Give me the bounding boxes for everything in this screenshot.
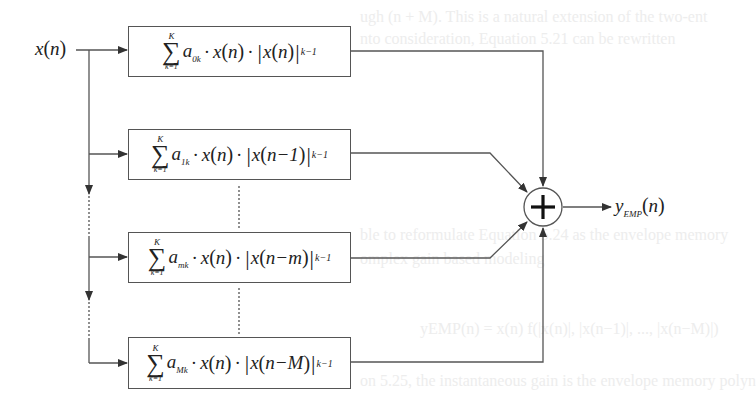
abs-arg: n (278, 41, 288, 63)
sigma-icon: K∑k=1 (162, 32, 181, 71)
input-label: x(n) (35, 37, 66, 60)
abs-arg: n−1 (267, 144, 299, 166)
branch-box-m: K∑k=1 amk · x(n) · |x(n−m)|k−1 (128, 232, 351, 283)
x-term: x (200, 352, 208, 374)
coefficient: a0k (183, 40, 201, 64)
x-arg: n (216, 247, 226, 269)
abs-bar: | (310, 245, 314, 271)
x-term: x (202, 144, 210, 166)
abs-bar: | (311, 350, 315, 376)
coefficient: amk (168, 246, 188, 270)
sigma-icon: K∑k=1 (148, 238, 167, 277)
branch-formula: K∑k=1 amk · x(n) · |x(n−m)|k−1 (148, 238, 331, 277)
branch-formula: K∑k=1 a1k · x(n) · |x(n−1)|k−1 (151, 135, 328, 174)
x-term: x (213, 41, 221, 63)
branch-formula: K∑k=1 aMk · x(n) · |x(n−M)|k−1 (146, 344, 332, 383)
input-arg: n (50, 38, 60, 59)
dot-operator: · (236, 144, 242, 166)
exponent: k−1 (312, 149, 328, 160)
x-arg: n (217, 144, 227, 166)
branch-box-0: K∑k=1 a0k · x(n) · |x(n)|k−1 (128, 26, 351, 77)
abs-bar: | (306, 142, 310, 168)
abs-bar: | (295, 39, 299, 65)
branch-box-1: K∑k=1 a1k · x(n) · |x(n−1)|k−1 (128, 129, 351, 180)
x-arg: n (215, 352, 225, 374)
x-term: x (252, 144, 260, 166)
output-label: yEMP(n) (615, 194, 665, 219)
sigma-icon: K∑k=1 (151, 135, 170, 174)
x-term: x (251, 247, 259, 269)
abs-bar: | (258, 39, 262, 65)
branch-box-M: K∑k=1 aMk · x(n) · |x(n−M)|k−1 (128, 337, 351, 389)
x-term: x (263, 41, 271, 63)
dot-operator: · (191, 352, 197, 374)
dot-operator: · (204, 41, 210, 63)
sigma-icon: K∑k=1 (146, 344, 165, 383)
abs-bar: | (245, 245, 249, 271)
output-subscript: EMP (623, 209, 642, 219)
abs-bar: | (246, 142, 250, 168)
dot-operator: · (234, 352, 240, 374)
dot-operator: · (191, 247, 197, 269)
x-arg: n (228, 41, 238, 63)
dot-operator: · (235, 247, 241, 269)
x-term: x (250, 352, 258, 374)
branch-formula: K∑k=1 a0k · x(n) · |x(n)|k−1 (162, 32, 317, 71)
exponent: k−1 (315, 252, 331, 263)
exponent: k−1 (301, 46, 317, 57)
dot-operator: · (193, 144, 199, 166)
output-arg: n (649, 195, 659, 216)
abs-bar: | (245, 350, 249, 376)
dot-operator: · (247, 41, 253, 63)
summer-plus-icon (524, 188, 562, 226)
exponent: k−1 (317, 358, 333, 369)
coefficient: a1k (172, 143, 190, 167)
abs-arg: n−m (266, 247, 302, 269)
coefficient: aMk (167, 351, 188, 375)
x-term: x (201, 247, 209, 269)
abs-arg: n−M (265, 352, 303, 374)
